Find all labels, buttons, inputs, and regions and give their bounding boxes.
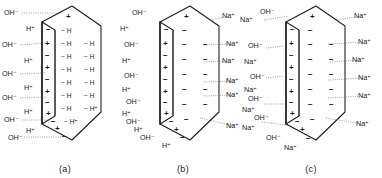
interior-symbol: − [203, 70, 208, 79]
ion-label: OH⁻ [260, 7, 275, 16]
channel-sign: − [306, 134, 311, 143]
ion-label: OH⁻ [254, 113, 269, 122]
panel-c-drawing: OH⁻ Na⁺ OH⁻ Na⁺ OH⁻ Na⁺ OH⁻ Na⁺ OH⁻ Na⁺ … [240, 0, 382, 160]
channel-sign: + [55, 124, 60, 133]
panel-a-drawing: OH⁻ H⁺ OH⁻ H⁺ OH⁻ H⁺ OH⁻ H⁺ OH⁻ H⁺ OH⁻ +… [0, 0, 130, 160]
channel-sign: − [45, 51, 50, 60]
interior-symbol: − [310, 115, 315, 124]
interior-symbol: − [203, 85, 208, 94]
ion-label: OH⁻ [124, 71, 139, 80]
ion-label: Na⁺ [242, 123, 255, 132]
leader-lines-c [262, 16, 364, 126]
ion-label: H⁺ [122, 56, 131, 65]
interior-symbol: − H [84, 66, 95, 73]
channel-sign: + [66, 12, 71, 21]
interior-symbols-a: − H − H − H − H − H − H − H − H − H − H … [61, 27, 98, 125]
ion-label: Na⁺ [352, 55, 365, 64]
ion-label: Na⁺ [358, 73, 371, 82]
interior-symbol: − H [61, 27, 72, 34]
ion-label: OH⁻ [124, 40, 139, 49]
ion-label: OH⁻ [4, 8, 19, 17]
interior-symbols-b: − − − − − − − − − − − − [182, 26, 208, 124]
ion-label: H⁺ [24, 56, 33, 65]
ion-label: OH⁻ [2, 40, 17, 49]
interior-symbol-proton: − H⁺ [64, 118, 78, 125]
panel-caption-c: (c) [240, 164, 382, 174]
channel-sign: − [62, 132, 67, 141]
ion-label: OH⁻ [126, 97, 141, 106]
interior-symbol: − [329, 70, 334, 79]
interior-symbol: − [182, 100, 187, 109]
ion-label: H⁺ [24, 83, 33, 92]
ion-label: OH⁻ [2, 93, 17, 102]
ion-label: H⁺ [122, 85, 131, 94]
ion-label: H⁺ [26, 126, 35, 135]
ion-label: Na⁺ [244, 57, 257, 66]
channel-sign: − [289, 98, 294, 107]
figure-root: OH⁻ H⁺ OH⁻ H⁺ OH⁻ H⁺ OH⁻ H⁺ OH⁻ H⁺ OH⁻ +… [0, 0, 382, 178]
interior-symbol: − H [84, 53, 95, 60]
interior-symbol: − [203, 40, 208, 49]
channel-sign: + [163, 63, 168, 72]
interior-symbol: − H⁺ [84, 105, 98, 112]
interior-symbol: − H [61, 92, 72, 99]
ion-label: H⁺ [120, 24, 129, 33]
ion-label: OH⁻ [140, 133, 155, 142]
interior-symbol: − [308, 85, 313, 94]
ion-label: OH⁻ [250, 72, 265, 81]
interior-symbol: − H [61, 79, 72, 86]
ion-label: OH⁻ [132, 8, 147, 17]
interior-symbol: − H [61, 40, 72, 47]
interior-symbol: − [308, 40, 313, 49]
channel-sign: − [289, 75, 294, 84]
channel-sign: + [45, 39, 50, 48]
ion-label: OH⁻ [248, 41, 263, 50]
interior-symbol: − [329, 40, 334, 49]
interior-symbol: − [182, 70, 187, 79]
channel-sign: + [163, 39, 168, 48]
ion-label: OH⁻ [266, 133, 281, 142]
ion-label: OH⁻ [4, 115, 19, 124]
ion-label: Na⁺ [222, 56, 235, 65]
channel-sign: − [45, 98, 50, 107]
panel-caption-a: (a) [0, 164, 130, 174]
interior-symbol: − H [61, 105, 72, 112]
ion-label: OH⁻ [248, 94, 263, 103]
interior-symbol: − H [61, 53, 72, 60]
ion-label: OH⁻ [8, 133, 23, 142]
channel-sign: + [289, 39, 294, 48]
interior-symbol: − [308, 55, 313, 64]
left-ion-labels-a: OH⁻ H⁺ OH⁻ H⁺ OH⁻ H⁺ OH⁻ H⁺ OH⁻ H⁺ OH⁻ [2, 8, 35, 142]
interior-symbol: − [329, 85, 334, 94]
panel-caption-b: (b) [118, 164, 248, 174]
ion-label: Na⁺ [356, 119, 369, 128]
interior-symbol: − [203, 55, 208, 64]
channel-sign: − [289, 51, 294, 60]
channel-sign: − [164, 25, 169, 34]
channel-sign: − [163, 51, 168, 60]
interior-symbol: − [308, 26, 313, 35]
panel-b: OH⁻ H⁺ OH⁻ H⁺ OH⁻ H⁺ OH⁻ H⁺ OH⁻ H⁺ OH⁻ H… [118, 0, 248, 178]
ion-label: H⁺ [162, 141, 171, 150]
ion-label: Na⁺ [354, 11, 367, 20]
ion-label: H⁺ [24, 107, 33, 116]
channel-sign: + [289, 87, 294, 96]
channel-sign: − [290, 25, 295, 34]
channel-sign: − [46, 25, 51, 34]
ion-label: Na⁺ [226, 90, 239, 99]
panel-b-drawing: OH⁻ H⁺ OH⁻ H⁺ OH⁻ H⁺ OH⁻ H⁺ OH⁻ H⁺ OH⁻ H… [118, 0, 248, 160]
ion-label: Na⁺ [226, 76, 239, 85]
channel-sign: + [300, 125, 305, 134]
channel-sign: + [45, 63, 50, 72]
right-ion-labels-b: Na⁺ Na⁺ Na⁺ Na⁺ Na⁺ Na⁺ [222, 11, 239, 130]
channel-sign: − [180, 133, 185, 142]
ion-label: Na⁺ [240, 15, 253, 24]
panel-a: OH⁻ H⁺ OH⁻ H⁺ OH⁻ H⁺ OH⁻ H⁺ OH⁻ H⁺ OH⁻ +… [0, 0, 130, 178]
interior-symbol: − [182, 85, 187, 94]
ion-label: Na⁺ [226, 39, 239, 48]
interior-symbol: − H [61, 66, 72, 73]
interior-symbol: − [184, 115, 189, 124]
right-ion-labels-c: Na⁺ Na⁺ Na⁺ Na⁺ Na⁺ Na⁺ [352, 11, 371, 128]
channel-sign: + [310, 12, 315, 21]
channel-sign: + [174, 125, 179, 134]
